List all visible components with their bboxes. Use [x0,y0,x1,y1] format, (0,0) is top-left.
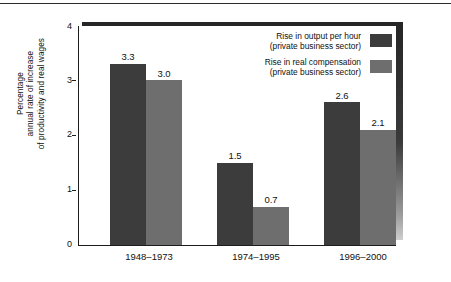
bar-chart-figure: Percentage annual rate of increase of pr… [0,0,451,282]
legend-label-real-compensation: Rise in real compensation (private busin… [265,57,361,78]
y-tick-label-3: 3 [56,76,72,85]
bar-value-series1-cat2: 2.1 [360,118,396,128]
bar-series1-cat1[interactable] [253,207,289,246]
x-axis-label-cat1: 1974–1995 [206,252,306,262]
y-axis-ticks: 4 3 2 1 0 [54,0,72,282]
y-axis-title-line-2: annual rate of increase [27,14,37,174]
legend-label-real-compensation-line1: Rise in real compensation [265,57,361,67]
bar-series1-cat2[interactable] [360,130,396,246]
legend-label-output-per-hour: Rise in output per hour (private busines… [270,31,361,52]
bar-value-series1-cat0: 3.0 [146,69,182,79]
bar-series0-cat0[interactable] [110,64,146,246]
y-tick-mark-3 [72,80,76,81]
legend-row-real-compensation[interactable]: Rise in real compensation (private busin… [241,57,393,79]
plot-shadow-right [396,22,403,240]
legend-label-output-per-hour-line2: (private business sector) [270,41,361,51]
y-tick-label-0: 0 [56,240,72,249]
legend-swatch-real-compensation [369,59,393,74]
y-axis-title-line-1: Percentage [16,14,26,174]
legend-label-output-per-hour-line1: Rise in output per hour [276,31,361,41]
y-tick-label-2: 2 [56,130,72,139]
plot-area: 3.3 3.0 1.5 0.7 2.6 2.1 Rise in output p… [78,26,396,246]
y-axis-title-line-3: of productivity and real wages [37,14,47,174]
x-axis-label-cat0: 1948–1973 [99,252,199,262]
legend-label-real-compensation-line2: (private business sector) [265,67,361,77]
x-axis-label-cat2: 1996–2000 [313,252,413,262]
bar-value-series0-cat0: 3.3 [110,52,146,62]
bar-series0-cat1[interactable] [217,163,253,246]
bar-value-series0-cat2: 2.6 [324,91,360,101]
y-tick-label-1: 1 [56,185,72,194]
y-axis-title: Percentage annual rate of increase of pr… [16,14,47,174]
y-tick-label-4: 4 [56,22,72,31]
legend-swatch-output-per-hour [369,33,393,48]
bar-series1-cat0[interactable] [146,80,182,245]
chart-legend: Rise in output per hour (private busines… [241,31,393,83]
y-tick-mark-2 [72,135,76,136]
y-tick-mark-1 [72,190,76,191]
legend-row-output-per-hour[interactable]: Rise in output per hour (private busines… [241,31,393,53]
bar-value-series1-cat1: 0.7 [253,195,289,205]
bar-value-series0-cat1: 1.5 [217,151,253,161]
bar-series0-cat2[interactable] [324,102,360,245]
